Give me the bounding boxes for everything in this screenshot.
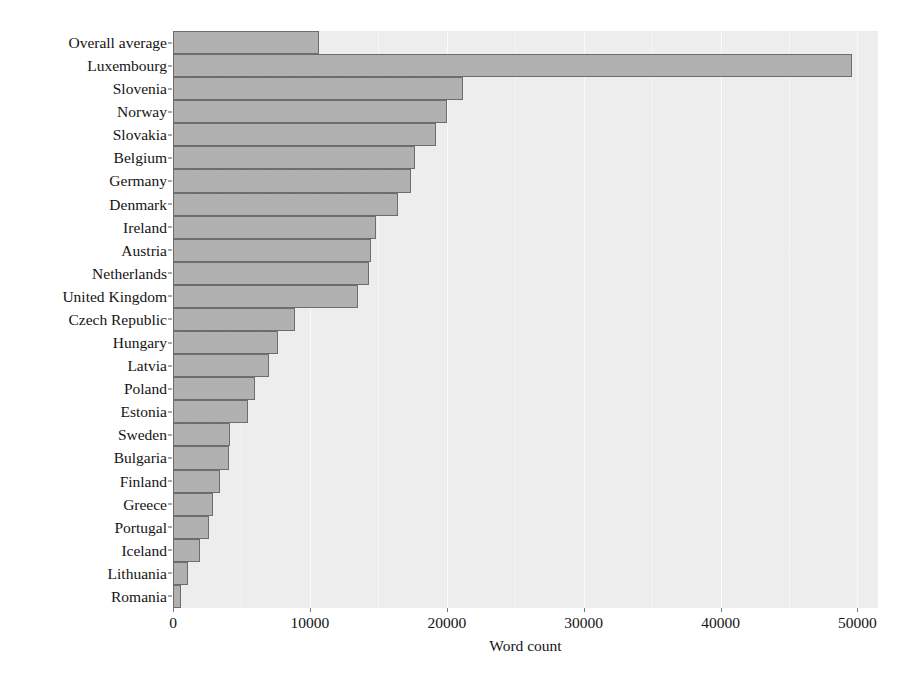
bar bbox=[173, 585, 181, 608]
y-axis-label: Lithuania bbox=[108, 562, 167, 585]
y-axis-label: Finland bbox=[120, 470, 167, 493]
bar bbox=[173, 77, 463, 100]
y-axis-tick-mark bbox=[168, 88, 172, 89]
bar bbox=[173, 100, 447, 123]
y-axis-label: Netherlands bbox=[92, 262, 167, 285]
bar bbox=[173, 31, 319, 54]
y-axis-tick-mark bbox=[168, 250, 172, 251]
x-axis-tick-label: 10000 bbox=[291, 614, 330, 632]
y-axis-tick-mark bbox=[168, 134, 172, 135]
bar bbox=[173, 123, 436, 146]
y-axis-tick-mark bbox=[168, 42, 172, 43]
x-axis-tick-label: 20000 bbox=[427, 614, 466, 632]
bar bbox=[173, 354, 269, 377]
y-axis-tick-mark bbox=[168, 181, 172, 182]
y-axis-label: Denmark bbox=[109, 193, 167, 216]
y-axis-tick-mark bbox=[168, 111, 172, 112]
bar bbox=[173, 400, 248, 423]
y-axis-label: Slovenia bbox=[113, 77, 167, 100]
bar bbox=[173, 239, 371, 262]
y-axis-tick-mark bbox=[168, 527, 172, 528]
y-axis-tick-mark bbox=[168, 227, 172, 228]
y-axis-tick-mark bbox=[168, 319, 172, 320]
x-axis-tick-label: 30000 bbox=[564, 614, 603, 632]
bar-chart: Overall averageLuxembourgSloveniaNorwayS… bbox=[0, 0, 908, 691]
y-axis-label: Greece bbox=[123, 493, 167, 516]
y-axis-label: Luxembourg bbox=[87, 54, 167, 77]
x-axis-tick-label: 50000 bbox=[838, 614, 877, 632]
bar bbox=[173, 331, 278, 354]
bar bbox=[173, 193, 398, 216]
bar bbox=[173, 262, 369, 285]
y-axis-tick-mark bbox=[168, 204, 172, 205]
y-axis-label: Iceland bbox=[121, 539, 167, 562]
bar bbox=[173, 493, 213, 516]
bar bbox=[173, 377, 255, 400]
y-axis-tick-mark bbox=[168, 365, 172, 366]
bar bbox=[173, 216, 376, 239]
y-axis-tick-mark bbox=[168, 504, 172, 505]
y-axis-tick-mark bbox=[168, 388, 172, 389]
y-axis-label: Czech Republic bbox=[68, 308, 167, 331]
x-axis-ticks: 01000020000300004000050000 bbox=[173, 608, 878, 634]
y-axis-label: Slovakia bbox=[113, 123, 167, 146]
y-axis-label: Belgium bbox=[114, 146, 167, 169]
y-axis-label: Portugal bbox=[114, 516, 167, 539]
bar bbox=[173, 308, 295, 331]
y-axis-label: Germany bbox=[109, 169, 167, 192]
y-axis-label: Ireland bbox=[123, 216, 167, 239]
bar bbox=[173, 423, 230, 446]
y-axis-label: Estonia bbox=[121, 400, 168, 423]
plot-area bbox=[173, 31, 878, 608]
y-axis-label: Romania bbox=[111, 585, 167, 608]
y-axis-labels: Overall averageLuxembourgSloveniaNorwayS… bbox=[0, 31, 167, 608]
x-axis-tick-mark bbox=[721, 608, 722, 612]
bar bbox=[173, 562, 188, 585]
y-axis-tick-mark bbox=[168, 157, 172, 158]
y-axis-label: Sweden bbox=[118, 423, 167, 446]
bar-series bbox=[173, 31, 878, 608]
y-axis-label: Austria bbox=[121, 239, 167, 262]
x-axis-tick-mark bbox=[310, 608, 311, 612]
x-axis-title: Word count bbox=[173, 637, 878, 655]
bar bbox=[173, 146, 415, 169]
bar bbox=[173, 539, 200, 562]
y-axis-label: Bulgaria bbox=[114, 446, 167, 469]
y-axis-tick-mark bbox=[168, 434, 172, 435]
y-axis-label: Hungary bbox=[113, 331, 167, 354]
bar bbox=[173, 169, 411, 192]
x-axis-tick-mark bbox=[447, 608, 448, 612]
y-axis-tick-mark bbox=[168, 550, 172, 551]
y-axis-label: United Kingdom bbox=[62, 285, 167, 308]
x-axis-tick-mark bbox=[584, 608, 585, 612]
y-axis-tick-mark bbox=[168, 273, 172, 274]
y-axis-tick-mark bbox=[168, 457, 172, 458]
y-axis-label: Poland bbox=[124, 377, 167, 400]
y-axis-tick-mark bbox=[168, 411, 172, 412]
y-axis-label: Norway bbox=[117, 100, 167, 123]
y-axis-tick-mark bbox=[168, 573, 172, 574]
bar bbox=[173, 470, 220, 493]
x-axis-tick-label: 40000 bbox=[701, 614, 740, 632]
y-axis-tick-mark bbox=[168, 342, 172, 343]
bar bbox=[173, 446, 229, 469]
y-axis-tick-mark bbox=[168, 296, 172, 297]
y-axis-label: Overall average bbox=[68, 31, 167, 54]
y-axis-tick-mark bbox=[168, 481, 172, 482]
bar bbox=[173, 54, 852, 77]
y-axis-label: Latvia bbox=[127, 354, 167, 377]
y-axis-tick-mark bbox=[168, 596, 172, 597]
x-axis-tick-label: 0 bbox=[169, 614, 177, 632]
bar bbox=[173, 516, 209, 539]
y-axis-tick-mark bbox=[168, 65, 172, 66]
x-axis-tick-mark bbox=[857, 608, 858, 612]
bar bbox=[173, 285, 358, 308]
x-axis-tick-mark bbox=[173, 608, 174, 612]
